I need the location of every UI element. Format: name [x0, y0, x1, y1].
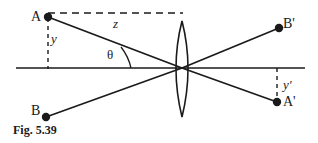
label-point-b-prime: B'	[283, 17, 295, 31]
ray-b-to-lens	[46, 68, 182, 117]
figure-caption: Fig. 5.39	[13, 124, 57, 136]
ray-diagram-svg	[0, 0, 318, 143]
ray-lens-to-bprime	[182, 28, 279, 68]
point-marker-bprime	[275, 24, 283, 32]
label-point-a: A	[31, 10, 41, 24]
point-marker-b	[42, 113, 50, 121]
label-object-height-y: y	[51, 32, 57, 45]
label-point-b: B	[31, 104, 40, 118]
ray-lens-to-aprime	[182, 68, 277, 102]
theta-angle-arc	[121, 47, 131, 68]
figure-container: A B B' A' y y' z θ Fig. 5.39	[0, 0, 318, 143]
label-point-a-prime: A'	[283, 95, 296, 109]
point-marker-aprime	[273, 98, 281, 106]
label-object-distance-z: z	[113, 17, 118, 30]
label-angle-theta: θ	[107, 48, 113, 61]
label-image-height-y-prime: y'	[283, 78, 292, 91]
point-marker-a	[44, 13, 52, 21]
